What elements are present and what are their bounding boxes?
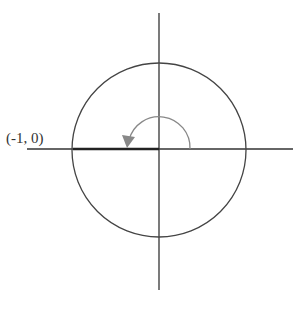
- point-label: (-1, 0): [6, 130, 44, 147]
- arrowhead-icon: [122, 135, 135, 148]
- unit-circle-diagram: (-1, 0): [0, 0, 303, 309]
